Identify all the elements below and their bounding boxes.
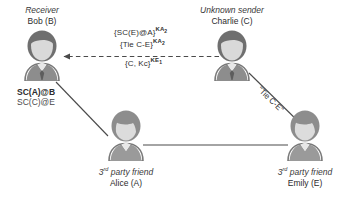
emily-role-label: 3rd party friend [278,168,333,178]
charlie-name-label: Charlie (C) [211,17,252,27]
avatar-charlie [209,29,255,81]
charlie-role-label: Unknown sender [200,6,264,16]
message-line-2-key-index: 2 [162,41,165,47]
emily-role-text: party friend [287,167,332,177]
message-line-3-key: KE [151,57,160,63]
bob-trust-secondary: SC(C)@E [17,98,55,108]
message-line-3: {C, Kc}KE1 [125,59,162,68]
message-line-2: {Tie C-E}KA2 [120,40,165,49]
avatar-emily [282,109,328,161]
avatar-bob [19,29,65,81]
alice-role-label: 3rd party friend [99,168,154,178]
message-line-2-main: {Tie C-E} [120,40,153,49]
emily-name-label: Emily (E) [288,179,322,189]
alice-role-text: party friend [108,167,153,177]
message-line-2-key: KA [153,38,162,44]
message-line-3-main: {C, Kc} [125,59,151,68]
message-line-1-key-index: 2 [164,29,167,35]
avatar-alice [103,109,149,161]
tie-ce-label: "Tie C-E" [256,85,286,114]
trust-protocol-diagram: Receiver Bob (B) SC(A)@B SC(C)@E Unknown… [0,0,358,201]
bob-name-label: Bob (B) [28,17,57,27]
message-line-1: {SC(E)@A}KA2 [114,28,167,37]
bob-role-label: Receiver [25,6,59,16]
message-line-3-key-index: 1 [159,60,162,66]
message-line-1-main: {SC(E)@A} [114,28,155,37]
line-bob-alice [56,82,108,136]
alice-name-label: Alice (A) [110,179,142,189]
